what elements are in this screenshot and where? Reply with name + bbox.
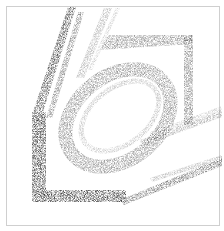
structure-members (32, 7, 222, 205)
top-frame-bar (100, 35, 192, 50)
right-frame-bar (184, 35, 193, 125)
topology-structure (0, 0, 224, 231)
bottom-bar (32, 190, 126, 202)
ring (46, 49, 189, 187)
left-column (32, 112, 46, 202)
